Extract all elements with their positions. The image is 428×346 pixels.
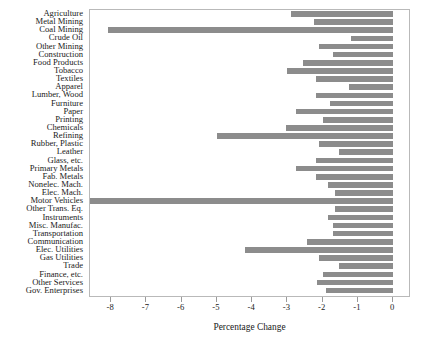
x-tick-label: -5 [212,302,219,312]
plot-area [89,9,410,297]
bar [328,215,393,221]
bar [108,27,394,33]
bar-row [90,246,409,254]
bar-row [90,75,409,83]
bar [319,44,393,50]
bar [335,190,393,196]
x-tick-label: -8 [107,302,114,312]
category-axis-labels: AgricultureMetal MiningCoal MiningCrude … [0,9,86,297]
bar [245,247,393,253]
category-label: Gov. Enterprises [0,286,86,294]
bar-row [90,91,409,99]
bar-row [90,157,409,165]
bar-row [90,181,409,189]
bar [339,263,394,269]
bar-row [90,205,409,213]
bar [326,288,393,294]
bar [287,68,393,74]
bar-row [90,173,409,181]
bar [328,182,393,188]
bar-row [90,271,409,279]
x-tick-label: -7 [142,302,149,312]
bar-row [90,140,409,148]
bar-row [90,262,409,270]
bar [349,84,393,90]
bar-row [90,18,409,26]
bar-row [90,148,409,156]
bar [296,166,393,172]
bar-row [90,83,409,91]
bar [296,109,393,115]
bar-row [90,10,409,18]
bar-row [90,230,409,238]
bar [286,125,394,131]
x-tick-label: -6 [177,302,184,312]
bar [330,101,393,107]
bar-row [90,222,409,230]
bar-row [90,34,409,42]
bar [314,19,393,25]
bar-row [90,214,409,222]
bar-row [90,254,409,262]
bar-row [90,238,409,246]
bar [351,36,393,42]
bar-row [90,51,409,59]
bar [316,174,394,180]
bar [319,255,393,261]
bar [90,198,393,204]
bar-row [90,59,409,67]
bar [323,117,393,123]
bar [291,11,393,17]
bar [335,206,393,212]
bar [316,76,394,82]
bar [303,60,393,66]
bar-row [90,108,409,116]
bar [217,133,393,139]
bar [333,52,393,58]
x-axis-title: Percentage Change [89,322,410,332]
bar [316,93,394,99]
bar-row [90,197,409,205]
x-tick-label: -2 [318,302,325,312]
bar [307,239,393,245]
x-tick-label: -1 [353,302,360,312]
bar [339,149,394,155]
bar [333,231,393,237]
bar-row [90,165,409,173]
bar-row [90,100,409,108]
bar [323,272,393,278]
bar-row [90,124,409,132]
bar-row [90,116,409,124]
x-tick-label: -3 [283,302,290,312]
bar-row [90,279,409,287]
bar-row [90,189,409,197]
bar-row [90,132,409,140]
bar-row [90,26,409,34]
bar [319,141,393,147]
bar-row [90,287,409,295]
bar [317,280,393,286]
x-axis: -8-7-6-5-4-3-2-10 [89,297,410,309]
bar [316,158,394,164]
x-tick-label: -4 [248,302,255,312]
bar [333,223,393,229]
x-tick-label: 0 [390,302,394,312]
bar-row [90,67,409,75]
bar-chart: AgricultureMetal MiningCoal MiningCrude … [0,0,428,346]
bar-row [90,43,409,51]
